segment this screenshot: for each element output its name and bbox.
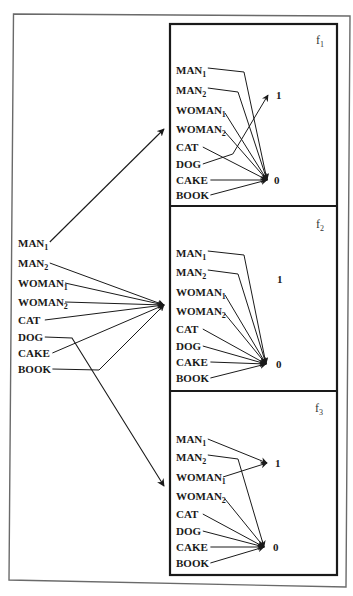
f1-input-label-dog-text: DOG	[176, 158, 202, 170]
f1-input-label-cake-text: CAKE	[176, 174, 208, 186]
f3-input-label-woman1-text: WOMAN	[176, 471, 222, 483]
f2-input-label-man2-text: MAN	[176, 266, 202, 278]
function-box-f2: f210MAN1MAN2WOMAN1WOMAN2CATDOGCAKEBOOK	[176, 217, 324, 384]
f1-input-label-man1-subscript: 1	[202, 70, 206, 79]
output-one-f1: 1	[276, 89, 282, 101]
input-label-woman1: WOMAN1	[18, 277, 68, 292]
edge-left-dog-to-f3	[45, 337, 164, 486]
input-label-cake: CAKE	[18, 347, 50, 359]
f2-input-label-woman1-text: WOMAN	[176, 286, 222, 298]
input-label-woman1-text: WOMAN	[18, 277, 64, 289]
f1-input-label-man2-subscript: 2	[202, 90, 206, 99]
function-title-f1: f1	[316, 33, 324, 49]
f2-input-label-dog: DOG	[176, 340, 202, 352]
edge-f3-woman1-to-1	[223, 463, 267, 477]
f3-input-label-cat-text: CAT	[176, 508, 199, 520]
f3-input-label-dog-text: DOG	[176, 525, 202, 537]
f3-input-label-man1-subscript: 1	[202, 439, 206, 448]
function-subscript: 1	[320, 40, 324, 49]
f3-input-label-cat: CAT	[176, 508, 199, 520]
input-label-woman2-subscript: 2	[64, 302, 68, 311]
function-mapping-diagram: MAN1MAN2WOMAN1WOMAN2CATDOGCAKEBOOK f110M…	[0, 0, 353, 596]
edge-f2-book-to-0	[210, 364, 266, 378]
f2-input-label-dog-text: DOG	[176, 340, 202, 352]
function-subscript: 3	[319, 408, 323, 417]
f1-input-label-man1: MAN1	[176, 64, 206, 79]
f1-input-label-man2: MAN2	[176, 84, 206, 99]
input-label-man1-subscript: 1	[44, 243, 48, 252]
f1-input-label-woman2-subscript: 2	[222, 129, 226, 138]
f3-input-label-dog: DOG	[176, 525, 202, 537]
f2-input-label-woman2-subscript: 2	[222, 311, 226, 320]
f3-input-label-woman2-subscript: 2	[222, 496, 226, 505]
edge-f3-cat-to-0	[203, 514, 264, 547]
f3-input-label-cake: CAKE	[176, 541, 208, 553]
edge-f3-woman2-to-0	[225, 499, 264, 547]
f2-input-label-man1-subscript: 1	[202, 253, 206, 262]
f2-input-label-woman1: WOMAN1	[176, 286, 226, 301]
f1-input-label-woman1-subscript: 1	[222, 110, 226, 119]
f2-input-label-man2: MAN2	[176, 266, 206, 281]
f2-input-label-man1: MAN1	[176, 247, 206, 262]
f1-input-label-man1-text: MAN	[176, 64, 202, 76]
input-label-dog: DOG	[18, 331, 44, 343]
f3-input-label-woman1: WOMAN1	[176, 471, 226, 486]
input-label-woman2-text: WOMAN	[18, 296, 64, 308]
f1-input-label-cake: CAKE	[176, 174, 208, 186]
input-label-woman2: WOMAN2	[18, 296, 68, 311]
f3-input-label-book: BOOK	[176, 557, 209, 569]
f1-input-label-woman1-text: WOMAN	[176, 104, 222, 116]
function-title-f3: f3	[315, 401, 323, 417]
f2-input-label-man1-text: MAN	[176, 247, 202, 259]
function-box-f1: f110MAN1MAN2WOMAN1WOMAN2CATDOGCAKEBOOK	[176, 33, 324, 201]
left-panel: MAN1MAN2WOMAN1WOMAN2CATDOGCAKEBOOK	[18, 129, 164, 486]
output-zero-f1: 0	[274, 174, 280, 186]
f1-input-label-woman2-text: WOMAN	[176, 123, 222, 135]
input-label-cat-text: CAT	[18, 314, 41, 326]
f2-input-label-book: BOOK	[176, 372, 209, 384]
edge-f3-book-to-0	[210, 547, 264, 563]
f1-input-label-woman1: WOMAN1	[176, 104, 226, 119]
f3-input-label-man2: MAN2	[176, 451, 206, 466]
edge-f1-woman1-to-0	[225, 113, 267, 180]
edge-left-man1-to-f1	[50, 129, 164, 242]
f3-input-label-book-text: BOOK	[176, 557, 209, 569]
f3-input-label-cake-text: CAKE	[176, 541, 208, 553]
input-label-man2-text: MAN	[18, 257, 44, 269]
edge-f1-woman2-to-0	[225, 132, 267, 180]
f3-input-label-man2-text: MAN	[176, 451, 202, 463]
f2-input-label-book-text: BOOK	[176, 372, 209, 384]
output-zero-f2: 0	[276, 358, 282, 370]
input-label-woman1-subscript: 1	[64, 283, 68, 292]
f3-input-label-woman1-subscript: 1	[222, 477, 226, 486]
input-label-dog-text: DOG	[18, 331, 44, 343]
f1-input-label-book: BOOK	[176, 189, 209, 201]
f1-input-label-cat: CAT	[176, 141, 199, 153]
f3-input-label-man1: MAN1	[176, 433, 206, 448]
input-label-book-text: BOOK	[18, 363, 51, 375]
f1-input-label-cat-text: CAT	[176, 141, 199, 153]
f3-input-label-woman2: WOMAN2	[176, 490, 226, 505]
f2-input-label-cake: CAKE	[176, 356, 208, 368]
edge-f2-cake-to-0	[210, 362, 266, 364]
output-one-f3: 1	[275, 457, 281, 469]
f1-input-label-man2-text: MAN	[176, 84, 202, 96]
output-one-f2: 1	[277, 273, 283, 285]
f1-input-label-woman2: WOMAN2	[176, 123, 226, 138]
input-label-book: BOOK	[18, 363, 51, 375]
f3-input-label-man2-subscript: 2	[202, 457, 206, 466]
f1-input-label-book-text: BOOK	[176, 189, 209, 201]
input-label-cat: CAT	[18, 314, 41, 326]
f2-input-label-cake-text: CAKE	[176, 356, 208, 368]
f2-input-label-cat: CAT	[176, 323, 199, 335]
function-box-f3: f310MAN1MAN2WOMAN1WOMAN2CATDOGCAKEBOOK	[176, 401, 323, 569]
function-title-f2: f2	[316, 217, 324, 233]
f3-input-label-woman2-text: WOMAN	[176, 490, 222, 502]
f2-input-label-cat-text: CAT	[176, 323, 199, 335]
input-label-man2: MAN2	[18, 257, 48, 272]
edge-f1-book-to-0	[210, 180, 267, 195]
f1-input-label-dog: DOG	[176, 158, 202, 170]
edge-left-woman2-to-f2	[65, 302, 164, 305]
function-subscript: 2	[320, 224, 324, 233]
input-label-cake-text: CAKE	[18, 347, 50, 359]
